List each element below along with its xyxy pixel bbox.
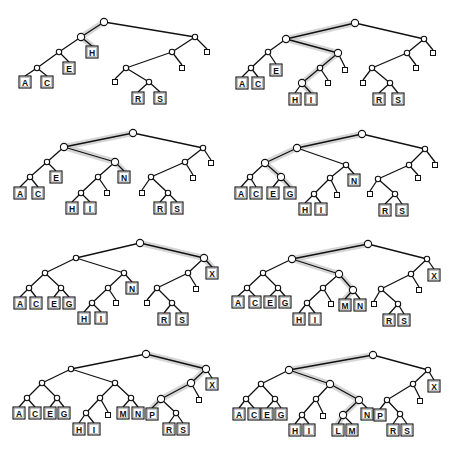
- tree-edge: [140, 243, 204, 258]
- internal-node: [24, 395, 29, 400]
- tree-edge: [172, 37, 195, 52]
- tree-edge: [314, 178, 330, 194]
- key-leaf-S: S: [177, 423, 189, 435]
- internal-node: [375, 176, 380, 181]
- key-label: E: [267, 298, 273, 308]
- tree-edge: [151, 177, 168, 193]
- internal-node: [313, 396, 318, 401]
- tree-edge: [29, 273, 45, 288]
- key-leaf-H: H: [78, 312, 90, 324]
- tree-edge: [407, 39, 424, 53]
- key-label: R: [135, 94, 141, 104]
- key-leaf-H: H: [289, 424, 301, 436]
- internal-node: [165, 190, 170, 195]
- empty-leaf: [368, 192, 373, 197]
- key-label: H: [302, 205, 308, 215]
- key-leaf-I: I: [309, 313, 321, 325]
- key-leaf-E: E: [50, 171, 62, 183]
- key-label: R: [376, 95, 382, 105]
- internal-node-large: [364, 240, 371, 247]
- key-leaf-E: E: [63, 62, 75, 74]
- key-leaf-E: E: [270, 64, 282, 76]
- empty-leaf: [321, 414, 326, 419]
- key-leaf-H: H: [299, 203, 311, 215]
- key-label: E: [47, 409, 53, 419]
- key-label: I: [314, 315, 316, 325]
- internal-node: [258, 381, 263, 386]
- tree-edge: [368, 244, 427, 259]
- internal-node: [154, 285, 159, 290]
- internal-node: [58, 285, 63, 290]
- empty-leaf: [343, 68, 348, 73]
- key-leaf-A: A: [235, 187, 247, 199]
- tree-edge: [251, 52, 268, 68]
- key-leaf-I: I: [95, 312, 107, 324]
- empty-leaf: [209, 161, 214, 166]
- tree-edge: [307, 288, 323, 303]
- key-leaf-P: P: [146, 408, 158, 420]
- internal-node: [424, 256, 429, 261]
- internal-node: [78, 190, 83, 195]
- key-leaf-M: M: [117, 407, 129, 419]
- key-label: I: [310, 95, 312, 105]
- tree-edge: [355, 23, 424, 39]
- key-label: X: [209, 380, 215, 390]
- internal-node-large: [351, 19, 358, 26]
- internal-node-large: [358, 130, 365, 137]
- internal-node: [311, 191, 316, 196]
- key-leaf-G: G: [284, 187, 296, 199]
- internal-node: [34, 65, 39, 70]
- key-leaf-H: H: [293, 313, 305, 325]
- key-label: C: [251, 410, 257, 420]
- tree-edge: [330, 384, 359, 400]
- tree-edge: [42, 369, 71, 383]
- key-leaf-G: G: [279, 296, 291, 308]
- internal-node-large: [369, 351, 376, 358]
- key-label: A: [17, 299, 23, 309]
- internal-node-large: [261, 159, 268, 166]
- search-path-highlight: [64, 133, 133, 171]
- key-leaf-A: A: [13, 407, 25, 419]
- tree-edge: [297, 134, 362, 148]
- internal-node: [421, 36, 426, 41]
- empty-leaf: [416, 176, 421, 181]
- internal-node: [343, 162, 348, 167]
- key-label: R: [166, 425, 172, 435]
- internal-node: [384, 397, 389, 402]
- tree-edge: [362, 134, 425, 149]
- tree-nodes: ACEHIRS: [236, 19, 436, 105]
- key-leaf-C: C: [252, 77, 264, 89]
- empty-leaf: [113, 80, 118, 85]
- tree-edge: [378, 179, 395, 194]
- key-label: G: [287, 189, 294, 199]
- panel-3: ACEHINRS: [14, 129, 214, 214]
- internal-node: [243, 396, 248, 401]
- internal-node: [68, 366, 73, 371]
- key-label: C: [35, 189, 41, 199]
- tree-edge: [64, 133, 133, 147]
- key-leaf-A: A: [236, 77, 248, 89]
- tree-edge: [45, 273, 61, 288]
- key-label: G: [61, 409, 68, 419]
- key-leaf-A: A: [14, 187, 26, 199]
- empty-leaf: [326, 81, 331, 86]
- key-label: R: [386, 316, 392, 326]
- key-label: H: [292, 95, 298, 105]
- key-leaf-S: S: [401, 424, 413, 436]
- tree-edge: [387, 384, 413, 400]
- internal-node: [56, 49, 61, 54]
- tree-edge: [372, 53, 407, 68]
- key-leaf-N: N: [118, 171, 130, 183]
- internal-node: [105, 285, 110, 290]
- tree-edge: [297, 148, 346, 165]
- key-leaf-E: E: [44, 407, 56, 419]
- key-label: G: [66, 299, 73, 309]
- tree-edge: [71, 354, 146, 369]
- key-leaf-H: H: [73, 423, 85, 435]
- key-label: I: [320, 205, 322, 215]
- key-leaf-P: P: [374, 409, 386, 421]
- empty-leaf: [145, 301, 150, 306]
- internal-node-large: [326, 380, 333, 387]
- figure-canvas: ACEHRSACEHIRSACEHINRSACEGHINRSACEGHINXRS…: [0, 0, 456, 454]
- key-label: R: [390, 426, 396, 436]
